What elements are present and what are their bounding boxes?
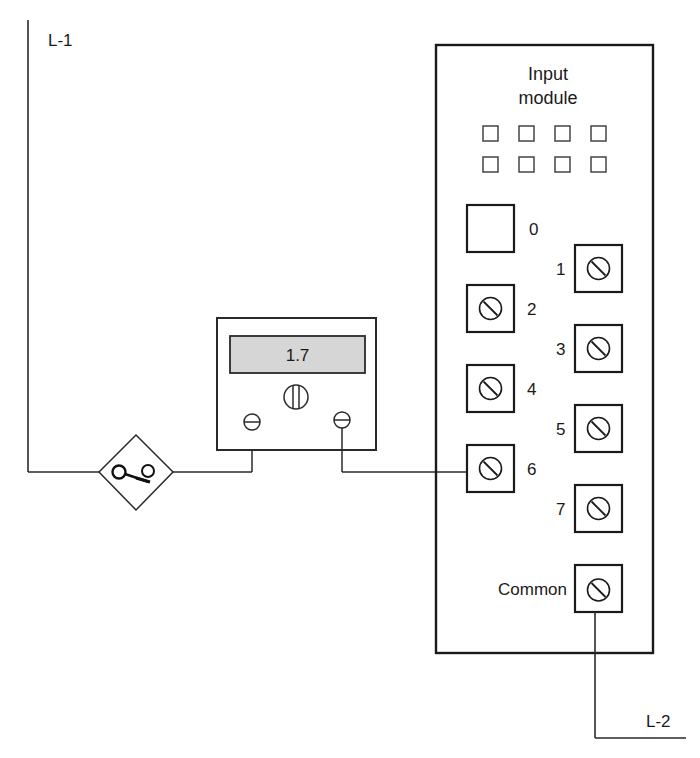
led-icon <box>555 126 570 141</box>
meter-terminal-left <box>244 414 260 430</box>
line-l2 <box>595 612 686 738</box>
meter: 1.7 <box>217 318 376 450</box>
led-icon <box>591 126 606 141</box>
module-title-line1: Input <box>528 64 568 84</box>
led-icon <box>591 157 606 172</box>
terminal-common-label: Common <box>498 580 567 599</box>
switch-icon <box>99 435 173 510</box>
module-title-line2: module <box>518 88 577 108</box>
led-icon <box>483 157 498 172</box>
led-icon <box>555 157 570 172</box>
line-l2-label: L-2 <box>646 712 671 731</box>
terminal-1: 1 <box>556 245 622 292</box>
terminal-6: 6 <box>467 445 536 492</box>
terminal-0-label: 0 <box>529 220 538 239</box>
led-icon <box>519 157 534 172</box>
knob-icon <box>284 385 308 409</box>
led-icon <box>483 126 498 141</box>
indicator-leds <box>483 126 606 172</box>
meter-reading: 1.7 <box>286 346 310 365</box>
terminal-6-label: 6 <box>527 460 536 479</box>
terminal-4: 4 <box>467 365 536 412</box>
terminal-common: Common <box>498 565 622 612</box>
terminal-7: 7 <box>556 485 622 532</box>
line-l1-label: L-1 <box>48 31 73 50</box>
line-l1 <box>28 20 99 472</box>
terminal-3-label: 3 <box>556 340 565 359</box>
terminal-2: 2 <box>467 285 536 332</box>
terminal-0: 0 <box>467 205 538 252</box>
input-module: Input module 0 1 2 <box>436 45 653 653</box>
led-icon <box>519 126 534 141</box>
terminal-5: 5 <box>556 405 622 452</box>
terminal-5-label: 5 <box>556 420 565 439</box>
terminal-3: 3 <box>556 325 622 372</box>
terminal-7-label: 7 <box>556 500 565 519</box>
terminal-1-label: 1 <box>556 260 565 279</box>
terminal-4-label: 4 <box>527 380 536 399</box>
terminal-2-label: 2 <box>527 300 536 319</box>
meter-terminal-right <box>334 412 350 428</box>
wiring-diagram: L-1 1.7 <box>0 0 700 758</box>
